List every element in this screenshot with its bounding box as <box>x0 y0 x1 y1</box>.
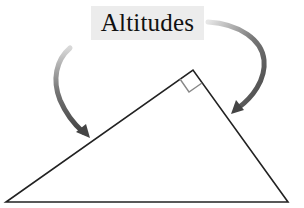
triangle <box>6 70 288 202</box>
left-altitude-arrow <box>56 48 83 132</box>
altitudes-label: Altitudes <box>91 6 204 40</box>
right-altitude-arrow <box>208 22 264 108</box>
right-angle-marker <box>180 79 202 92</box>
altitudes-label-text: Altitudes <box>101 9 194 37</box>
